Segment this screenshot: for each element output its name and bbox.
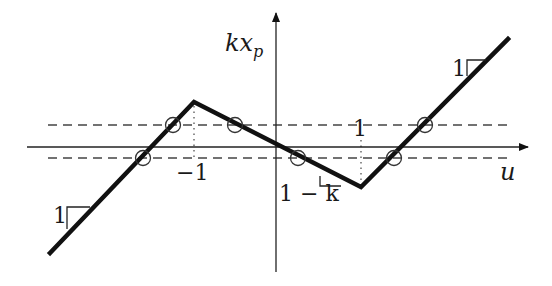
- slope-label-middle: 1 − k: [279, 181, 339, 206]
- piecewise-curve: [50, 39, 508, 253]
- slope-label-left: 1: [53, 203, 67, 228]
- diagram: kxp u −1 1 1 − k 1 1: [0, 0, 552, 286]
- slope-label-right: 1: [452, 56, 466, 81]
- tick-label-pos-one: 1: [353, 116, 367, 141]
- x-axis-label: u: [500, 158, 515, 186]
- tick-label-neg-one: −1: [176, 160, 208, 185]
- y-axis-label: kxp: [225, 29, 263, 61]
